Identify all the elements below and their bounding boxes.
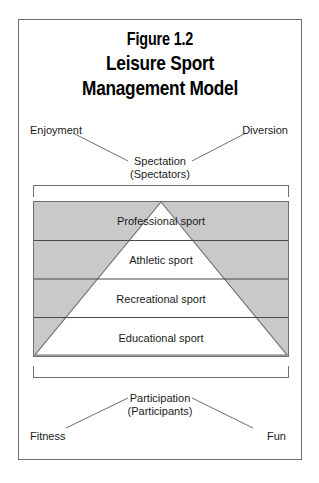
title-block: Figure 1.2 Leisure Sport Management Mode… — [18, 29, 302, 100]
figure-container: Figure 1.2 Leisure Sport Management Mode… — [0, 0, 319, 483]
tier-label-educational-sport: Educational sport — [34, 332, 288, 345]
tier-label-recreational-sport: Recreational sport — [34, 293, 288, 306]
bracket-bottom — [33, 366, 289, 378]
figure-title-line-1: Leisure Sport — [44, 51, 277, 75]
label-spectation: Spectation (Spectators) — [18, 155, 302, 181]
label-diversion: Diversion — [242, 124, 288, 137]
label-fun: Fun — [267, 430, 286, 443]
label-participation: Participation (Participants) — [18, 392, 302, 418]
label-spectation-line-2: (Spectators) — [18, 168, 302, 181]
label-participation-line-2: (Participants) — [18, 405, 302, 418]
label-spectation-line-1: Spectation — [18, 155, 302, 168]
label-fitness: Fitness — [30, 430, 65, 443]
label-participation-line-1: Participation — [18, 392, 302, 405]
pyramid-diagram: Professional sport Athletic sport Recrea… — [33, 201, 289, 357]
tier-label-athletic-sport: Athletic sport — [34, 254, 288, 267]
tier-label-professional-sport: Professional sport — [34, 215, 288, 228]
bracket-top — [33, 185, 289, 197]
figure-number: Figure 1.2 — [46, 29, 273, 50]
label-enjoyment: Enjoyment — [30, 124, 82, 137]
figure-title-line-2: Management Model — [44, 76, 277, 100]
